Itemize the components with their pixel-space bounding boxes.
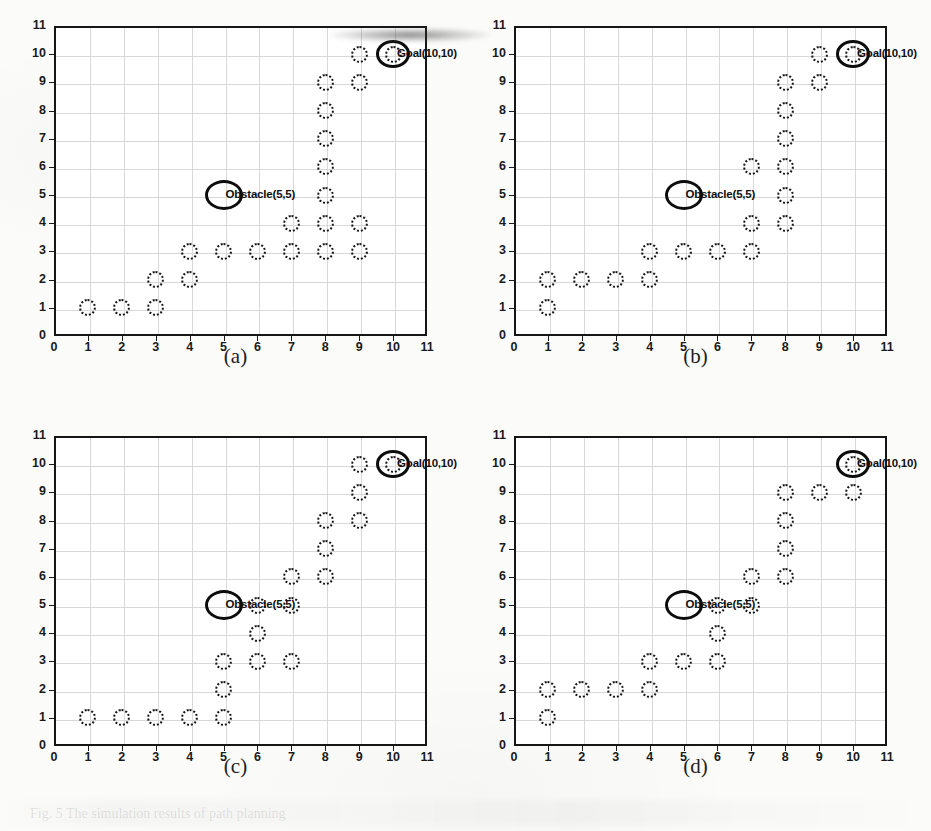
x-tick-label: 1 — [538, 750, 558, 764]
y-tick-mark — [509, 521, 514, 522]
gridline-horizontal — [56, 56, 425, 57]
gridline-horizontal — [56, 282, 425, 283]
gridline-horizontal — [56, 310, 425, 311]
y-tick-mark — [49, 82, 54, 83]
subfigure-a: (a) 0123456789101101234567891011Obstacle… — [8, 4, 463, 372]
x-tick-mark — [291, 336, 292, 341]
path-node-marker — [249, 653, 266, 670]
y-tick-label: 4 — [22, 625, 46, 639]
gridline-horizontal — [56, 635, 425, 636]
obstacle-label: Obstacle(5,5) — [686, 598, 756, 610]
goal-label: Goal(10,10) — [397, 457, 457, 469]
x-tick-mark — [257, 746, 258, 751]
x-tick-label: 3 — [146, 750, 166, 764]
y-tick-label: 9 — [482, 74, 506, 88]
y-tick-mark — [49, 195, 54, 196]
gridlines-c — [56, 438, 425, 744]
x-tick-mark — [717, 336, 718, 341]
y-tick-label: 10 — [482, 46, 506, 60]
y-tick-label: 3 — [482, 653, 506, 667]
path-node-marker — [675, 243, 692, 260]
gridline-vertical — [584, 438, 585, 744]
x-tick-label: 7 — [741, 340, 761, 354]
y-tick-label: 0 — [22, 738, 46, 752]
x-tick-label: 5 — [674, 750, 694, 764]
path-node-marker — [743, 215, 760, 232]
x-tick-label: 5 — [214, 340, 234, 354]
x-tick-mark — [684, 746, 685, 751]
x-tick-label: 3 — [606, 750, 626, 764]
x-tick-label: 1 — [78, 750, 98, 764]
y-tick-label: 0 — [482, 328, 506, 342]
path-node-marker — [351, 243, 368, 260]
x-tick-label: 6 — [707, 340, 727, 354]
path-node-marker — [811, 484, 828, 501]
y-tick-mark — [49, 111, 54, 112]
y-tick-label: 1 — [482, 300, 506, 314]
subfigure-b: (b) 0123456789101101234567891011Obstacle… — [468, 4, 923, 372]
x-tick-label: 10 — [383, 340, 403, 354]
x-tick-label: 6 — [247, 750, 267, 764]
y-tick-mark — [509, 661, 514, 662]
path-node-marker — [777, 540, 794, 557]
gridline-horizontal — [516, 282, 885, 283]
gridline-horizontal — [516, 56, 885, 57]
path-node-marker — [249, 625, 266, 642]
y-tick-mark — [509, 223, 514, 224]
goal-label: Goal(10,10) — [857, 47, 917, 59]
path-node-marker — [317, 74, 334, 91]
gridline-horizontal — [56, 169, 425, 170]
axes-frame-a — [54, 26, 427, 336]
gridline-vertical — [753, 28, 754, 334]
gridline-horizontal — [56, 494, 425, 495]
x-tick-label: 10 — [383, 750, 403, 764]
x-tick-mark — [393, 336, 394, 341]
x-tick-label: 7 — [741, 750, 761, 764]
path-node-marker — [777, 512, 794, 529]
axes-frame-b — [514, 26, 887, 336]
x-tick-label: 2 — [112, 340, 132, 354]
y-tick-mark — [49, 251, 54, 252]
plot-area-b: (b) 0123456789101101234567891011Obstacle… — [468, 4, 923, 372]
path-node-marker — [283, 653, 300, 670]
y-tick-mark — [509, 718, 514, 719]
y-tick-label: 1 — [482, 710, 506, 724]
path-node-marker — [777, 102, 794, 119]
gridline-horizontal — [56, 466, 425, 467]
plot-area-a: (a) 0123456789101101234567891011Obstacle… — [8, 4, 463, 372]
path-node-marker — [215, 243, 232, 260]
x-tick-label: 3 — [146, 340, 166, 354]
y-tick-label: 1 — [22, 300, 46, 314]
y-tick-label: 3 — [22, 653, 46, 667]
path-node-marker — [317, 187, 334, 204]
x-tick-label: 0 — [504, 750, 524, 764]
path-node-marker — [317, 540, 334, 557]
obstacle-label: Obstacle(5,5) — [226, 188, 296, 200]
x-tick-mark — [359, 336, 360, 341]
gridline-vertical — [618, 28, 619, 334]
x-tick-mark — [819, 746, 820, 751]
y-tick-label: 0 — [22, 328, 46, 342]
x-tick-mark — [325, 746, 326, 751]
x-tick-label: 4 — [640, 340, 660, 354]
y-tick-label: 7 — [482, 541, 506, 555]
x-tick-mark — [224, 746, 225, 751]
gridline-horizontal — [56, 225, 425, 226]
y-tick-mark — [49, 521, 54, 522]
gridline-vertical — [124, 28, 125, 334]
path-node-marker — [351, 46, 368, 63]
gridline-horizontal — [516, 113, 885, 114]
x-tick-label: 5 — [214, 750, 234, 764]
path-node-marker — [181, 243, 198, 260]
gridline-horizontal — [516, 141, 885, 142]
y-tick-label: 4 — [482, 625, 506, 639]
y-tick-label: 6 — [22, 569, 46, 583]
y-tick-label: 0 — [482, 738, 506, 752]
y-tick-label: 6 — [482, 569, 506, 583]
gridline-horizontal — [56, 579, 425, 580]
x-tick-mark — [853, 746, 854, 751]
y-tick-mark — [509, 195, 514, 196]
y-tick-label: 2 — [22, 272, 46, 286]
gridline-horizontal — [516, 523, 885, 524]
x-tick-mark — [616, 746, 617, 751]
